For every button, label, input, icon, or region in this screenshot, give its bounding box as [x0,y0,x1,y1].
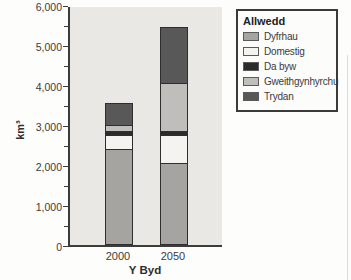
legend-swatch [243,62,259,71]
y-axis-major-tick [63,166,68,167]
bar-segment-gweithgynhyrchu [160,83,188,131]
y-axis-major-tick [63,246,68,247]
bar-segment-trydan [105,103,133,125]
legend-swatch [243,32,259,41]
y-axis-major-tick [63,46,68,47]
y-axis-minor-tick [64,26,68,27]
legend-swatch [243,77,259,86]
legend-item-gweithgynhyrchu: Gweithgynhyrchu [243,76,331,87]
legend-label: Dyfrhau [259,31,298,42]
x-tick-label-2000: 2000 [93,250,143,262]
legend-swatch [243,47,259,56]
y-axis-minor-tick [64,106,68,107]
bar-segment-dyfrhau [105,149,133,245]
legend-item-trydan: Trydan [243,91,331,102]
page-edge-line [347,55,348,280]
bar-segment-domestig [105,135,133,149]
y-axis-major-tick [63,206,68,207]
y-axis-major-tick [63,126,68,127]
plot-area [68,7,222,247]
legend-title: Allwedd [243,15,331,27]
y-axis-minor-tick [64,226,68,227]
legend-label: Gweithgynhyrchu [259,76,338,87]
legend-label: Trydan [259,91,294,102]
bar-segment-trydan [160,27,188,83]
y-tick-label: 2,000 [14,161,62,173]
y-axis-minor-tick [64,146,68,147]
legend-item-da-byw: Da byw [243,61,331,72]
y-tick-label: 4,000 [14,81,62,93]
y-tick-label: 6,000 [14,1,62,13]
legend: Allwedd DyfrhauDomestigDa bywGweithgynhy… [236,9,338,112]
bar-segment-domestig [160,135,188,163]
bar-2050 [160,27,188,245]
y-axis-minor-tick [64,186,68,187]
y-tick-label: 0 [14,241,62,253]
legend-item-dyfrhau: Dyfrhau [243,31,331,42]
legend-label: Domestig [259,46,305,57]
x-tick-label-2050: 2050 [148,250,198,262]
y-tick-label: 3,000 [14,121,62,133]
y-tick-label: 1,000 [14,201,62,213]
y-axis-minor-tick [64,66,68,67]
bar-segment-dyfrhau [160,163,188,245]
bar-2000 [105,103,133,245]
legend-swatch [243,92,259,101]
y-tick-label: 5,000 [14,41,62,53]
legend-item-domestig: Domestig [243,46,331,57]
y-axis-major-tick [63,6,68,7]
legend-label: Da byw [259,61,296,72]
y-axis-major-tick [63,86,68,87]
x-axis-title: Y Byd [95,264,195,276]
figure: km³ Y Byd Allwedd DyfrhauDomestigDa bywG… [0,0,351,280]
